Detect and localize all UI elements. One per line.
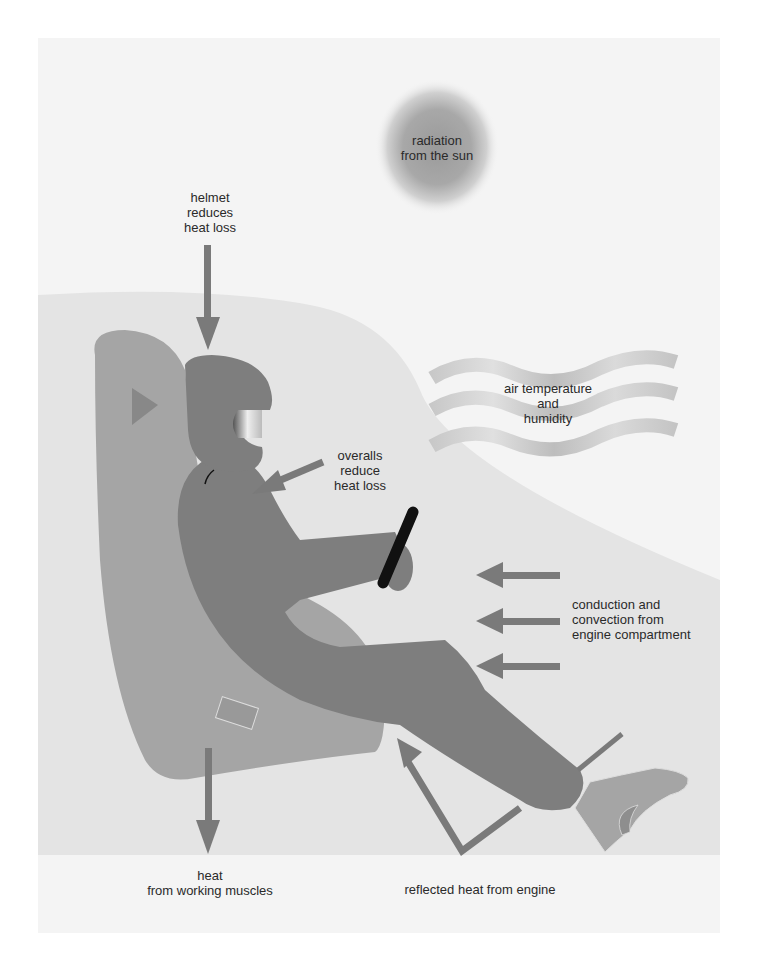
helmet-arrow-icon [204, 245, 211, 320]
label-muscles-line1: heat [130, 868, 290, 883]
label-engine: conduction and convection from engine co… [572, 597, 691, 642]
label-sun: radiation from the sun [387, 133, 487, 163]
label-air-line2: and [488, 396, 608, 411]
label-engine-line2: convection from [572, 612, 691, 627]
label-overalls-line3: heat loss [320, 478, 400, 493]
label-reflected-line1: reflected heat from engine [380, 882, 580, 897]
label-air-line1: air temperature [488, 381, 608, 396]
label-sun-line2: from the sun [387, 148, 487, 163]
label-engine-line3: engine compartment [572, 627, 691, 642]
muscles-arrow-icon [205, 748, 212, 823]
label-helmet-line2: reduces [160, 205, 260, 220]
label-muscles: heat from working muscles [130, 868, 290, 898]
label-overalls: overalls reduce heat loss [320, 448, 400, 493]
label-sun-line1: radiation [387, 133, 487, 148]
label-reflected: reflected heat from engine [380, 882, 580, 897]
diagram-canvas: radiation from the sun helmet reduces he… [0, 0, 760, 966]
label-overalls-line2: reduce [320, 463, 400, 478]
label-air-line3: humidity [488, 411, 608, 426]
label-helmet: helmet reduces heat loss [160, 190, 260, 235]
label-air: air temperature and humidity [488, 381, 608, 426]
visor-icon [233, 410, 262, 438]
label-overalls-line1: overalls [320, 448, 400, 463]
label-engine-line1: conduction and [572, 597, 691, 612]
label-muscles-line2: from working muscles [130, 883, 290, 898]
label-helmet-line3: heat loss [160, 220, 260, 235]
label-helmet-line1: helmet [160, 190, 260, 205]
